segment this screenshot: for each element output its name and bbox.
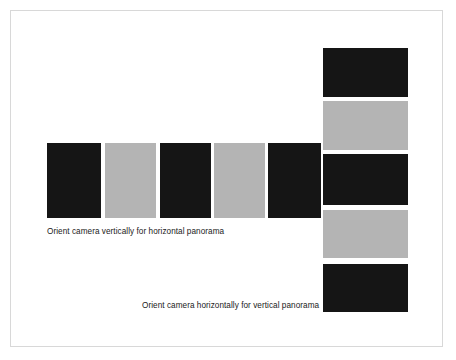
- landscape-frame-4: [323, 210, 408, 258]
- landscape-frame-5: [323, 264, 408, 312]
- portrait-frame-4: [214, 143, 265, 218]
- portrait-frame-1: [47, 143, 101, 218]
- landscape-frame-3: [323, 154, 408, 205]
- panorama-orientation-diagram: Orient camera vertically for horizontal …: [0, 0, 456, 360]
- portrait-frame-3: [160, 143, 211, 218]
- landscape-frame-2: [323, 101, 408, 150]
- portrait-frame-2: [105, 143, 156, 218]
- portrait-frame-5: [268, 143, 321, 218]
- caption-horizontal-panorama: Orient camera vertically for horizontal …: [47, 226, 224, 237]
- caption-vertical-panorama: Orient camera horizontally for vertical …: [142, 300, 319, 311]
- landscape-frame-1: [323, 48, 408, 97]
